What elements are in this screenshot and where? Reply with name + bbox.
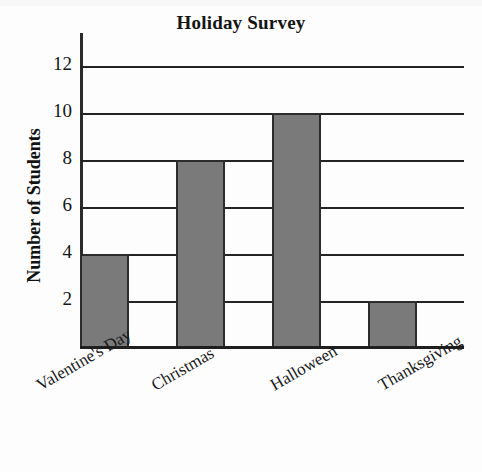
y-axis-tick-label: 10 — [30, 100, 72, 122]
bar — [272, 113, 321, 348]
y-axis-tick-label: 4 — [30, 241, 72, 263]
plot-area — [80, 33, 464, 349]
scan-artifact — [0, 0, 482, 6]
chart-title: Holiday Survey — [0, 12, 482, 34]
gridline — [80, 66, 464, 68]
y-axis-tick-label: 8 — [30, 147, 72, 169]
y-axis-tick-label: 6 — [30, 194, 72, 216]
bar — [368, 301, 417, 348]
x-axis-line — [80, 346, 464, 349]
y-axis-tick-label: 2 — [30, 288, 72, 310]
y-axis-tick-label: 12 — [30, 53, 72, 75]
x-axis-category-label: Halloween — [267, 341, 341, 395]
bar — [176, 160, 225, 348]
x-axis-category-label: Christmas — [148, 344, 218, 396]
chart-page: Holiday Survey Number of Students 246810… — [0, 0, 482, 472]
